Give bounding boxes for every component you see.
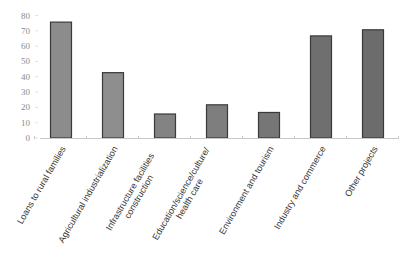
svg-text:Environment and tourism: Environment and tourism [217, 145, 276, 237]
svg-text:Education/science/culture/: Education/science/culture/ [150, 145, 211, 241]
bar [207, 105, 228, 138]
x-axis-labels: Loans to rural familiesAgricultural indu… [15, 144, 380, 247]
bar [311, 36, 332, 138]
y-tick-label: 80 [21, 11, 31, 21]
x-tick-label: Other projects [343, 144, 380, 198]
x-tick-label: Education/science/culture/health care [150, 145, 220, 246]
bar-chart: 01020304050607080 Loans to rural familie… [0, 0, 415, 257]
y-tick-label: 60 [21, 41, 31, 51]
bar [155, 114, 176, 138]
y-tick-label: 40 [21, 72, 31, 82]
y-tick-label: 10 [21, 118, 31, 128]
bars [51, 22, 384, 138]
y-tick-label: 50 [21, 56, 31, 66]
svg-text:Other projects: Other projects [343, 144, 380, 198]
y-axis: 01020304050607080 [21, 11, 38, 144]
y-tick-label: 20 [21, 102, 31, 112]
x-tick-label: Industry and commerce [272, 145, 328, 231]
svg-text:Loans to rural families: Loans to rural families [15, 144, 68, 226]
bar [103, 73, 124, 138]
svg-text:Industry and commerce: Industry and commerce [272, 145, 328, 231]
x-tick-label: Infrastructure facilitiesconstruction [104, 151, 165, 237]
bar [363, 30, 384, 138]
bar [51, 22, 72, 138]
x-tick-label: Loans to rural families [15, 144, 68, 226]
y-tick-label: 30 [21, 87, 31, 97]
x-tick-label: Environment and tourism [217, 145, 276, 237]
y-tick-label: 70 [21, 26, 31, 36]
y-tick-label: 0 [26, 133, 31, 143]
bar [259, 112, 280, 138]
